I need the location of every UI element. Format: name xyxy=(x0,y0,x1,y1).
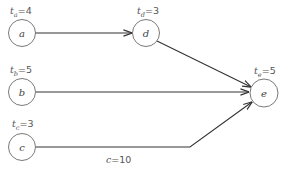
node-e-label: e xyxy=(261,88,267,99)
node-b-label: b xyxy=(19,87,25,98)
edge-d-e xyxy=(157,41,251,87)
time-value: =3 xyxy=(19,118,33,129)
time-value: =5 xyxy=(18,64,32,75)
time-value: =3 xyxy=(145,5,159,16)
node-e-time-label: te=5 xyxy=(254,65,276,79)
time-value: =4 xyxy=(18,5,32,16)
node-d-time-label: td=3 xyxy=(137,5,159,19)
node-c: c tc=3 xyxy=(9,118,36,161)
edge-label-value: =10 xyxy=(111,154,131,165)
node-d-label: d xyxy=(143,28,149,39)
node-d: d td=3 xyxy=(133,5,160,47)
node-e: e te=5 xyxy=(250,65,278,107)
node-a-time-label: ta=4 xyxy=(10,5,32,19)
time-value: =5 xyxy=(262,65,276,76)
edge-c-e-label: c=10 xyxy=(106,154,131,165)
node-a-label: a xyxy=(19,28,25,39)
edge-c-e xyxy=(36,102,252,147)
node-b-time-label: tb=5 xyxy=(10,64,32,78)
node-b: b tb=5 xyxy=(9,64,36,106)
node-c-label: c xyxy=(19,142,25,153)
node-c-time-label: tc=3 xyxy=(12,118,33,132)
edges xyxy=(35,33,252,147)
network-diagram: a ta=4 b tb=5 c tc=3 d td=3 xyxy=(0,0,288,170)
node-a: a ta=4 xyxy=(9,5,36,47)
